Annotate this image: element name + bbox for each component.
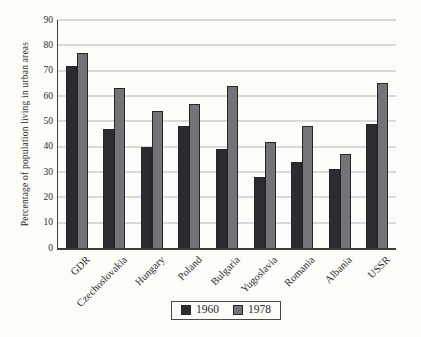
- x-axis-label: Bulgaria: [208, 254, 241, 287]
- x-axis-label: Romania: [282, 254, 317, 289]
- y-tick-label: 20: [44, 193, 54, 203]
- bar-yugoslavia-1960: [254, 177, 265, 248]
- x-axis-label: Hungary: [133, 254, 167, 288]
- bar-group: [246, 20, 284, 248]
- bar-hungary-1960: [141, 147, 152, 248]
- bar-czechoslovakia-1978: [114, 88, 125, 248]
- y-tick-label: 50: [44, 117, 54, 127]
- legend-row: 19601978: [57, 301, 395, 320]
- bar-bulgaria-1978: [227, 86, 238, 248]
- bar-group: [283, 20, 321, 248]
- x-label-slot: USSR: [358, 250, 396, 302]
- bar-bulgaria-1960: [216, 149, 227, 248]
- bar-ussr-1960: [366, 124, 377, 248]
- x-axis-label: USSR: [366, 254, 392, 280]
- legend-swatch-1960: [181, 305, 191, 315]
- legend-item-1960: 1960: [181, 304, 219, 316]
- bar-gdr-1960: [66, 66, 77, 248]
- y-tick-label: 0: [48, 243, 53, 253]
- y-tick-label: 70: [44, 66, 54, 76]
- bar-gdr-1978: [77, 53, 88, 248]
- bar-group: [133, 20, 171, 248]
- bar-poland-1978: [189, 104, 200, 248]
- plot-area: 0102030405060708090: [57, 20, 396, 250]
- x-label-slot: Albania: [320, 250, 358, 302]
- bar-czechoslovakia-1960: [103, 129, 114, 248]
- bar-groups: [58, 20, 396, 248]
- legend-label: 1978: [248, 304, 271, 316]
- legend-box: 19601978: [171, 301, 281, 320]
- bar-romania-1960: [291, 162, 302, 248]
- legend-item-1978: 1978: [233, 304, 271, 316]
- bar-group: [96, 20, 134, 248]
- y-tick-label: 90: [44, 15, 54, 25]
- bar-group: [208, 20, 246, 248]
- bar-romania-1978: [302, 126, 313, 248]
- bar-group: [58, 20, 96, 248]
- x-label-slot: Poland: [170, 250, 208, 302]
- bar-albania-1960: [329, 169, 340, 248]
- x-label-slot: Czechoslovakia: [95, 250, 133, 302]
- bar-ussr-1978: [377, 83, 388, 248]
- bar-poland-1960: [178, 126, 189, 248]
- bar-yugoslavia-1978: [265, 142, 276, 248]
- x-axis-label: Yugoslavia: [239, 254, 280, 295]
- x-labels: GDRCzechoslovakiaHungaryPolandBulgariaYu…: [57, 250, 395, 302]
- bar-albania-1978: [340, 154, 351, 248]
- y-tick-label: 80: [44, 41, 54, 51]
- legend-label: 1960: [196, 304, 219, 316]
- y-tick-label: 10: [44, 218, 54, 228]
- bar-group: [359, 20, 397, 248]
- y-tick-label: 30: [44, 167, 54, 177]
- x-axis-label: Albania: [323, 254, 354, 285]
- y-tick-label: 60: [44, 91, 54, 101]
- x-axis-label: Poland: [176, 254, 204, 282]
- bar-group: [171, 20, 209, 248]
- y-axis-label: Percentage of population living in urban…: [20, 42, 30, 226]
- chart-figure: Percentage of population living in urban…: [0, 0, 421, 337]
- bar-hungary-1978: [152, 111, 163, 248]
- x-label-slot: Hungary: [132, 250, 170, 302]
- x-label-slot: Yugoslavia: [245, 250, 283, 302]
- x-label-slot: Bulgaria: [207, 250, 245, 302]
- y-tick-label: 40: [44, 142, 54, 152]
- bar-group: [321, 20, 359, 248]
- x-label-slot: Romania: [282, 250, 320, 302]
- x-axis-label: GDR: [68, 254, 91, 277]
- legend-swatch-1978: [233, 305, 243, 315]
